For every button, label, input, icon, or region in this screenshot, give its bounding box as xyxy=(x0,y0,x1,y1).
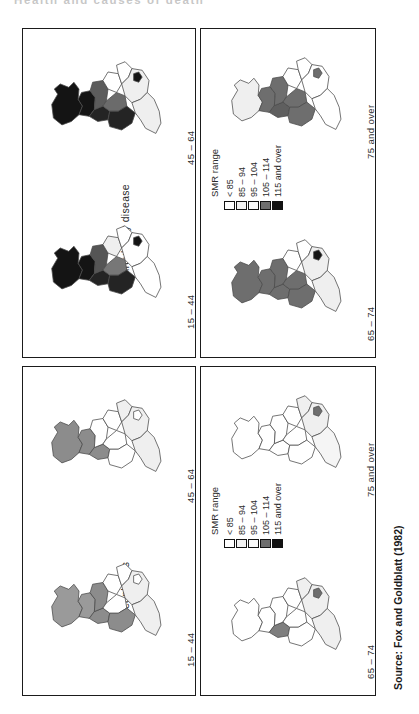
map-age-label: 65 – 74 xyxy=(365,645,376,680)
legend-item-label: 105 – 114 xyxy=(261,158,271,197)
legend-swatch xyxy=(224,201,235,210)
map-region-scotland xyxy=(232,78,263,121)
choropleth-map xyxy=(50,190,178,340)
legend-swatch xyxy=(260,539,271,548)
map-region-scotland xyxy=(52,584,83,627)
map-cell xyxy=(39,37,189,165)
map-region-scotland xyxy=(232,416,263,459)
legend-item-label: 105 – 114 xyxy=(261,496,271,535)
figure-source-note: Source: Fox and Goldblatt (1982) xyxy=(392,525,404,690)
choropleth-map xyxy=(230,360,358,510)
legend-swatch xyxy=(260,201,271,210)
map-age-label: 15 – 44 xyxy=(185,295,196,330)
map-cell xyxy=(219,215,369,343)
map-cell xyxy=(219,33,369,161)
map-cell xyxy=(39,539,189,667)
panel-circulatory-disease-right: 75 and over65 – 74SMR range< 8585 – 9495… xyxy=(200,28,376,358)
legend-swatch xyxy=(272,201,283,210)
legend-item-label: < 85 xyxy=(225,517,235,535)
map-region-scotland xyxy=(232,598,263,641)
map-cell xyxy=(39,201,189,329)
map-region-scotland xyxy=(232,260,263,303)
legend-swatch xyxy=(236,201,247,210)
legend-item-label: 95 – 104 xyxy=(249,500,259,535)
choropleth-map xyxy=(50,528,178,678)
choropleth-map xyxy=(230,22,358,172)
choropleth-map xyxy=(230,542,358,692)
map-age-label: 15 – 44 xyxy=(185,633,196,668)
panel-neoplasms-right: 75 and over65 – 74SMR range< 8585 – 9495… xyxy=(200,366,376,696)
legend-swatch xyxy=(236,539,247,548)
map-age-label: 45 – 64 xyxy=(185,469,196,504)
map-age-label: 75 and over xyxy=(365,442,376,497)
legend-swatch xyxy=(224,539,235,548)
legend-title: SMR range xyxy=(209,149,220,197)
choropleth-map xyxy=(50,26,178,176)
legend-title: SMR range xyxy=(209,487,220,535)
map-age-label: 65 – 74 xyxy=(365,307,376,342)
map-region-scotland xyxy=(52,82,83,125)
choropleth-map xyxy=(230,204,358,354)
map-age-label: 45 – 64 xyxy=(185,131,196,166)
legend-swatch xyxy=(272,539,283,548)
legend-item-label: 85 – 94 xyxy=(237,505,247,535)
map-cell xyxy=(39,375,189,503)
legend-swatch xyxy=(248,201,259,210)
legend-item-label: 95 – 104 xyxy=(249,162,259,197)
legend-item-label: 85 – 94 xyxy=(237,167,247,197)
map-region-scotland xyxy=(52,246,83,289)
map-age-label: 75 and over xyxy=(365,104,376,159)
map-cell xyxy=(219,371,369,499)
legend-swatch xyxy=(248,539,259,548)
legend-item-label: < 85 xyxy=(225,179,235,197)
map-cell xyxy=(219,553,369,681)
choropleth-map xyxy=(50,364,178,514)
panel-circulatory-disease-left: Circulatory disease45 – 6415 – 44 xyxy=(22,28,196,358)
map-region-scotland xyxy=(52,420,83,463)
panel-neoplasms-left: Neoplasms45 – 6415 – 44 xyxy=(22,366,196,696)
running-head: Health and causes of death xyxy=(14,0,274,8)
legend-item-label: 115 and over xyxy=(273,145,283,197)
legend-item-label: 115 and over xyxy=(273,483,283,535)
